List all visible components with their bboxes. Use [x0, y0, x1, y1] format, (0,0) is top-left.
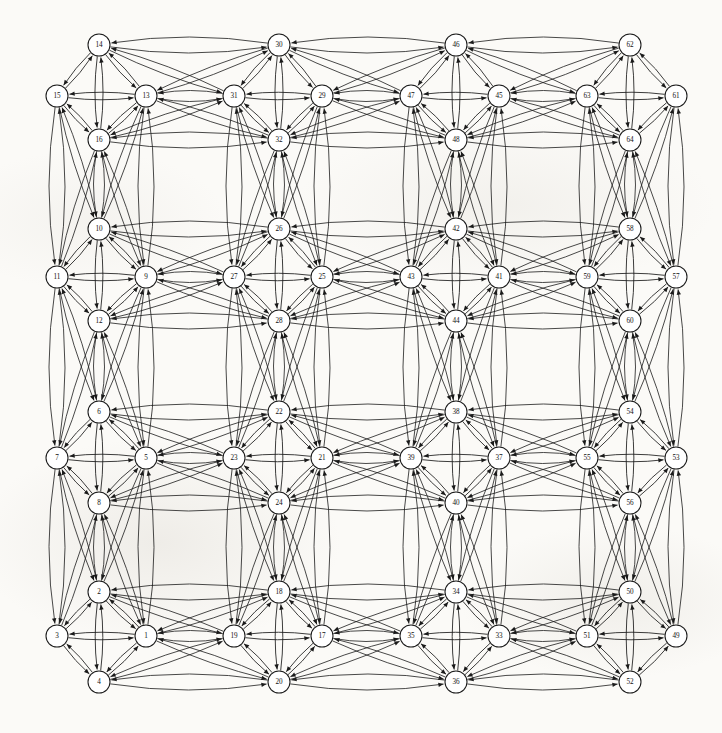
graph-node-63[interactable]: 63	[576, 85, 598, 107]
graph-node-45[interactable]: 45	[488, 85, 510, 107]
edge-arrowhead	[599, 91, 604, 95]
graph-node-22[interactable]: 22	[268, 401, 290, 423]
graph-node-44[interactable]: 44	[445, 310, 467, 332]
graph-node-47[interactable]: 47	[400, 85, 422, 107]
graph-node-19[interactable]: 19	[223, 625, 245, 647]
inter-cluster-edge	[403, 469, 409, 623]
intra-cluster-edge	[422, 98, 486, 100]
graph-node-53[interactable]: 53	[665, 447, 687, 469]
graph-node-62[interactable]: 62	[619, 34, 641, 56]
graph-node-42[interactable]: 42	[445, 218, 467, 240]
graph-node-5[interactable]: 5	[135, 447, 157, 469]
graph-node-52[interactable]: 52	[619, 671, 641, 693]
graph-node-43[interactable]: 43	[400, 266, 422, 288]
node-label: 36	[452, 678, 460, 686]
graph-node-4[interactable]: 4	[88, 671, 110, 693]
intra-cluster-edge	[275, 423, 277, 490]
graph-node-23[interactable]: 23	[223, 447, 245, 469]
graph-node-18[interactable]: 18	[268, 581, 290, 603]
intra-cluster-edge	[106, 601, 135, 629]
graph-node-60[interactable]: 60	[619, 310, 641, 332]
graph-node-50[interactable]: 50	[619, 581, 641, 603]
inter-cluster-edge	[589, 470, 595, 624]
edge-arrowhead	[423, 272, 428, 276]
graph-node-14[interactable]: 14	[88, 34, 110, 56]
graph-node-16[interactable]: 16	[88, 129, 110, 151]
graph-node-15[interactable]: 15	[46, 85, 68, 107]
inter-cluster-edge	[511, 639, 619, 677]
inter-cluster-edge	[468, 221, 618, 227]
edge-arrowhead	[69, 631, 74, 635]
graph-node-3[interactable]: 3	[46, 625, 68, 647]
edge-arrowhead	[621, 395, 625, 401]
inter-cluster-edge	[592, 152, 628, 266]
graph-node-41[interactable]: 41	[488, 266, 510, 288]
intra-cluster-edge	[281, 604, 283, 670]
edge-arrowhead	[481, 96, 486, 100]
node-label: 6	[97, 408, 101, 416]
edge-arrowhead	[291, 224, 296, 228]
graph-node-28[interactable]: 28	[268, 310, 290, 332]
graph-node-27[interactable]: 27	[223, 266, 245, 288]
graph-node-39[interactable]: 39	[400, 447, 422, 469]
graph-node-36[interactable]: 36	[445, 671, 467, 693]
intra-cluster-edge	[286, 643, 313, 671]
graph-node-13[interactable]: 13	[135, 85, 157, 107]
graph-node-58[interactable]: 58	[619, 218, 641, 240]
graph-node-57[interactable]: 57	[665, 266, 687, 288]
inter-cluster-edge	[468, 584, 618, 590]
graph-node-54[interactable]: 54	[619, 401, 641, 423]
graph-node-1[interactable]: 1	[135, 625, 157, 647]
node-label: 14	[95, 41, 103, 49]
graph-node-26[interactable]: 26	[268, 218, 290, 240]
graph-node-6[interactable]: 6	[88, 401, 110, 423]
graph-node-9[interactable]: 9	[135, 266, 157, 288]
graph-node-55[interactable]: 55	[576, 447, 598, 469]
graph-node-7[interactable]: 7	[46, 447, 68, 469]
graph-node-31[interactable]: 31	[223, 85, 245, 107]
graph-node-24[interactable]: 24	[268, 492, 290, 514]
edge-arrowhead	[304, 277, 309, 281]
intra-cluster-edge	[452, 240, 454, 308]
graph-node-35[interactable]: 35	[400, 625, 422, 647]
graph-node-32[interactable]: 32	[268, 129, 290, 151]
edge-arrowhead	[624, 515, 628, 521]
inter-cluster-edge	[102, 151, 141, 265]
graph-node-8[interactable]: 8	[88, 492, 110, 514]
graph-node-2[interactable]: 2	[88, 581, 110, 603]
inter-cluster-edge	[290, 641, 399, 679]
graph-node-10[interactable]: 10	[88, 218, 110, 240]
intra-cluster-edge	[241, 467, 269, 495]
node-label: 22	[275, 408, 283, 416]
inter-cluster-edge	[579, 288, 585, 445]
graph-node-34[interactable]: 34	[445, 581, 467, 603]
graph-node-33[interactable]: 33	[488, 625, 510, 647]
graph-node-17[interactable]: 17	[311, 625, 333, 647]
graph-node-38[interactable]: 38	[445, 401, 467, 423]
graph-node-61[interactable]: 61	[665, 85, 687, 107]
graph-node-20[interactable]: 20	[268, 671, 290, 693]
intra-cluster-edge	[636, 55, 666, 88]
graph-node-21[interactable]: 21	[311, 447, 333, 469]
graph-node-29[interactable]: 29	[311, 85, 333, 107]
graph-node-49[interactable]: 49	[665, 625, 687, 647]
graph-node-25[interactable]: 25	[311, 266, 333, 288]
node-label: 9	[144, 273, 148, 281]
graph-node-51[interactable]: 51	[576, 625, 598, 647]
graph-node-11[interactable]: 11	[46, 266, 68, 288]
graph-node-40[interactable]: 40	[445, 492, 467, 514]
graph-node-12[interactable]: 12	[88, 310, 110, 332]
intra-cluster-edge	[596, 239, 623, 269]
graph-node-30[interactable]: 30	[268, 34, 290, 56]
graph-node-46[interactable]: 46	[445, 34, 467, 56]
edge-arrowhead	[458, 211, 462, 217]
graph-node-64[interactable]: 64	[619, 129, 641, 151]
inter-cluster-edge	[501, 470, 507, 624]
edge-arrowhead	[88, 56, 93, 62]
node-label: 11	[54, 273, 61, 281]
graph-node-56[interactable]: 56	[619, 492, 641, 514]
intra-cluster-edge	[64, 237, 90, 267]
graph-node-37[interactable]: 37	[488, 447, 510, 469]
graph-node-48[interactable]: 48	[445, 129, 467, 151]
graph-node-59[interactable]: 59	[576, 266, 598, 288]
